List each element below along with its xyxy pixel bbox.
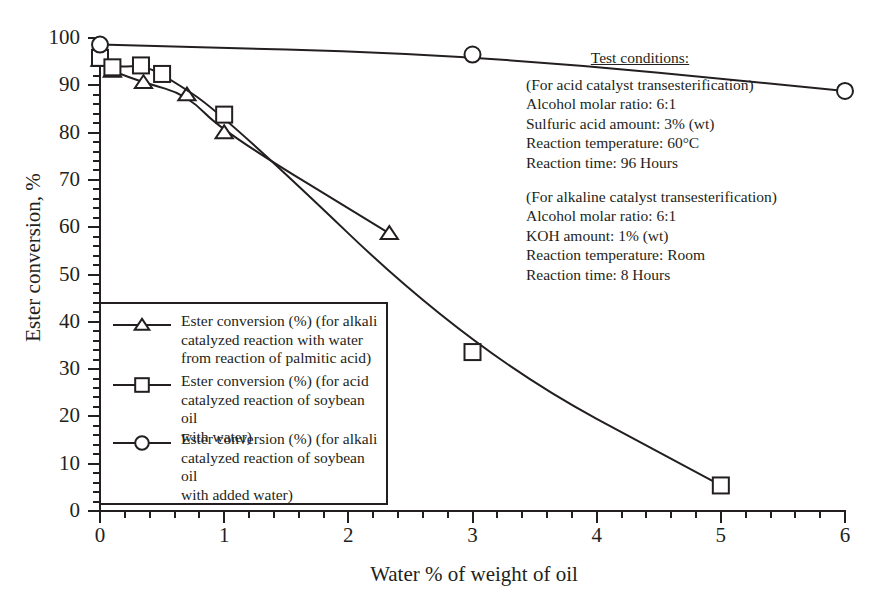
y-tick-minor: [93, 188, 99, 190]
y-tick-label: 60: [46, 216, 80, 237]
y-tick-major: [88, 510, 99, 512]
data-point-square: [713, 477, 729, 493]
x-tick-label: 0: [80, 525, 120, 546]
data-point-triangle: [216, 125, 233, 138]
y-tick-minor: [93, 122, 99, 124]
x-tick-label: 4: [577, 525, 617, 546]
y-tick-major: [88, 274, 99, 276]
x-tick-minor: [695, 512, 697, 518]
test-conditions-title: Test conditions:: [526, 48, 754, 68]
conditions-spacer: [526, 173, 846, 187]
x-tick-minor: [422, 512, 424, 518]
y-tick-minor: [93, 141, 99, 143]
alkaline-condition-line: KOH amount: 1% (wt): [526, 226, 846, 246]
series-line: [100, 60, 389, 233]
y-tick-major: [88, 37, 99, 39]
y-tick-label: 10: [46, 453, 80, 474]
x-tick-minor: [447, 512, 449, 518]
legend-label-line: catalyzed reaction of soybean oil: [181, 391, 381, 428]
x-tick-minor: [198, 512, 200, 518]
alkaline-conditions-block: (For alkaline catalyst transesterificati…: [526, 187, 846, 285]
legend-label-line: catalyzed reaction of soybean oil: [181, 449, 381, 486]
x-tick-label: 1: [204, 525, 244, 546]
y-tick-minor: [93, 75, 99, 77]
alkaline-condition-line: Alcohol molar ratio: 6:1: [526, 206, 846, 226]
y-tick-minor: [93, 113, 99, 115]
x-tick-major: [99, 512, 101, 523]
x-tick-minor: [248, 512, 250, 518]
legend-marker-triangle: [111, 315, 173, 335]
data-point-square: [133, 57, 149, 73]
acid-condition-line: Sulfuric acid amount: 3% (wt): [526, 114, 846, 134]
y-axis-title: Ester conversion, %: [21, 128, 46, 388]
y-tick-major: [88, 84, 99, 86]
x-axis-title: Water % of weight of oil: [299, 562, 649, 587]
y-tick-minor: [93, 236, 99, 238]
y-tick-minor: [93, 217, 99, 219]
data-point-triangle: [104, 64, 121, 77]
y-tick-minor: [93, 169, 99, 171]
x-tick-minor: [546, 512, 548, 518]
y-tick-major: [88, 368, 99, 370]
y-tick-minor: [93, 264, 99, 266]
y-tick-major: [88, 463, 99, 465]
x-tick-minor: [372, 512, 374, 518]
y-tick-major: [88, 179, 99, 181]
data-point-triangle: [381, 226, 398, 239]
x-tick-minor: [819, 512, 821, 518]
x-tick-minor: [571, 512, 573, 518]
x-tick-major: [347, 512, 349, 523]
x-tick-minor: [770, 512, 772, 518]
x-tick-minor: [323, 512, 325, 518]
y-tick-label: 20: [46, 405, 80, 426]
chart-legend: Ester conversion (%) (for alkalicatalyze…: [99, 302, 388, 505]
x-tick-minor: [149, 512, 151, 518]
alkaline-condition-line: (For alkaline catalyst transesterificati…: [526, 187, 846, 207]
y-tick-label: 30: [46, 358, 80, 379]
y-tick-label: 70: [46, 169, 80, 190]
alkaline-condition-line: Reaction temperature: Room: [526, 245, 846, 265]
acid-condition-line: Alcohol molar ratio: 6:1: [526, 94, 846, 114]
x-tick-minor: [397, 512, 399, 518]
x-tick-minor: [174, 512, 176, 518]
x-tick-label: 5: [701, 525, 741, 546]
y-tick-minor: [93, 283, 99, 285]
acid-condition-line: (For acid catalyst transesterification): [526, 75, 846, 95]
y-tick-minor: [93, 160, 99, 162]
data-point-square: [104, 59, 120, 75]
y-tick-major: [88, 132, 99, 134]
y-tick-label: 0: [46, 500, 80, 521]
x-tick-minor: [645, 512, 647, 518]
y-tick-label: 90: [46, 74, 80, 95]
x-tick-minor: [745, 512, 747, 518]
y-tick-minor: [93, 207, 99, 209]
x-tick-minor: [621, 512, 623, 518]
data-point-square: [216, 107, 232, 123]
y-tick-minor: [93, 56, 99, 58]
legend-label: Ester conversion (%) (for alkalicatalyze…: [181, 430, 381, 504]
y-tick-minor: [93, 65, 99, 67]
x-tick-label: 2: [328, 525, 368, 546]
legend-label-line: Ester conversion (%) (for alkali: [181, 430, 381, 449]
x-tick-minor: [124, 512, 126, 518]
y-tick-minor: [93, 198, 99, 200]
x-tick-major: [844, 512, 846, 523]
legend-marker-square: [111, 375, 173, 395]
legend-label-line: Ester conversion (%) (for acid: [181, 372, 381, 391]
legend-label-line: with added water): [181, 486, 381, 505]
legend-label-line: catalyzed reaction with water: [181, 331, 381, 350]
x-tick-label: 6: [825, 525, 865, 546]
y-tick-minor: [93, 94, 99, 96]
chart-figure: 0102030405060708090100 0123456 Ester con…: [0, 0, 872, 605]
series-triangle: [91, 53, 398, 239]
y-tick-label: 40: [46, 311, 80, 332]
y-tick-minor: [93, 103, 99, 105]
data-point-square: [154, 66, 170, 82]
x-tick-major: [472, 512, 474, 523]
x-tick-minor: [298, 512, 300, 518]
x-tick-minor: [496, 512, 498, 518]
alkaline-condition-line: Reaction time: 8 Hours: [526, 265, 846, 285]
acid-condition-line: Reaction temperature: 60°C: [526, 133, 846, 153]
legend-marker-circle: [111, 433, 173, 453]
y-tick-major: [88, 321, 99, 323]
